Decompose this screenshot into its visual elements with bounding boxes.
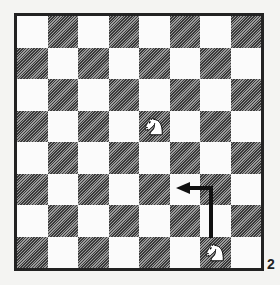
square-d2 [109, 205, 140, 237]
square-c8 [78, 16, 109, 48]
square-g3 [200, 174, 231, 206]
square-c2 [78, 205, 109, 237]
square-f3 [170, 174, 201, 206]
square-h7 [231, 48, 262, 80]
square-e8 [139, 16, 170, 48]
square-c5 [78, 111, 109, 143]
square-g8 [200, 16, 231, 48]
square-b6 [48, 79, 79, 111]
square-d8 [109, 16, 140, 48]
square-g2 [200, 205, 231, 237]
square-c4 [78, 142, 109, 174]
square-a3 [17, 174, 48, 206]
square-e4 [139, 142, 170, 174]
square-b2 [48, 205, 79, 237]
square-f2 [170, 205, 201, 237]
square-b7 [48, 48, 79, 80]
square-e1 [139, 237, 170, 269]
square-a2 [17, 205, 48, 237]
square-h5 [231, 111, 262, 143]
square-g6 [200, 79, 231, 111]
square-a5 [17, 111, 48, 143]
square-b5 [48, 111, 79, 143]
square-b3 [48, 174, 79, 206]
square-f8 [170, 16, 201, 48]
square-h1 [231, 237, 262, 269]
square-f6 [170, 79, 201, 111]
square-d3 [109, 174, 140, 206]
square-d5 [109, 111, 140, 143]
square-e7 [139, 48, 170, 80]
square-h2 [231, 205, 262, 237]
square-f7 [170, 48, 201, 80]
square-a8 [17, 16, 48, 48]
square-e6 [139, 79, 170, 111]
square-g7 [200, 48, 231, 80]
white-knight-icon [139, 111, 170, 143]
square-b4 [48, 142, 79, 174]
square-d4 [109, 142, 140, 174]
square-c1 [78, 237, 109, 269]
diagram-number: 2 [267, 256, 275, 272]
square-h3 [231, 174, 262, 206]
square-d1 [109, 237, 140, 269]
square-a7 [17, 48, 48, 80]
square-g1 [200, 237, 231, 269]
chess-board [14, 13, 264, 271]
square-f1 [170, 237, 201, 269]
square-e5 [139, 111, 170, 143]
square-a4 [17, 142, 48, 174]
square-c3 [78, 174, 109, 206]
square-g4 [200, 142, 231, 174]
square-h6 [231, 79, 262, 111]
square-e2 [139, 205, 170, 237]
square-d7 [109, 48, 140, 80]
square-c6 [78, 79, 109, 111]
white-knight-icon [200, 237, 231, 269]
square-a1 [17, 237, 48, 269]
square-d6 [109, 79, 140, 111]
square-a6 [17, 79, 48, 111]
square-f5 [170, 111, 201, 143]
square-h4 [231, 142, 262, 174]
square-c7 [78, 48, 109, 80]
square-h8 [231, 16, 262, 48]
square-e3 [139, 174, 170, 206]
square-b8 [48, 16, 79, 48]
square-g5 [200, 111, 231, 143]
square-b1 [48, 237, 79, 269]
square-f4 [170, 142, 201, 174]
